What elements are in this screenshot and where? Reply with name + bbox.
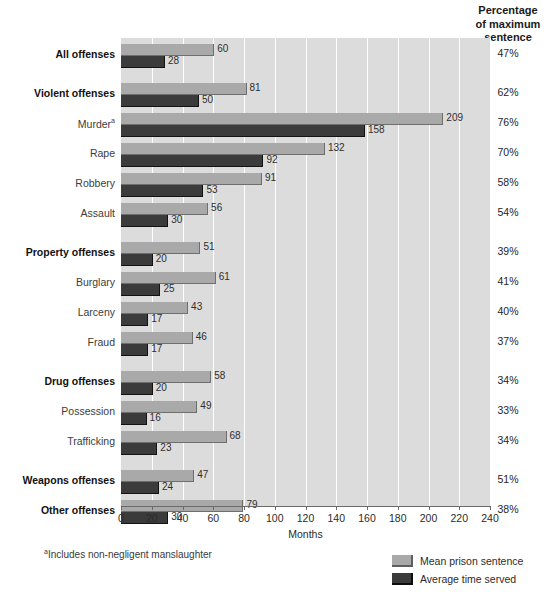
legend: Mean prison sentenceAverage time served bbox=[392, 553, 523, 589]
row-label-fraud: Fraud bbox=[0, 336, 115, 348]
row-label-assault: Assault bbox=[0, 207, 115, 219]
percentage-of-maximum-sentence-value: 34% bbox=[462, 434, 554, 446]
percentage-of-maximum-sentence-value: 39% bbox=[462, 245, 554, 257]
bar-average-time-served bbox=[121, 413, 147, 425]
percentage-of-maximum-sentence-value: 70% bbox=[462, 146, 554, 158]
bar-value-mean: 60 bbox=[217, 43, 228, 54]
bar-value-mean: 81 bbox=[250, 82, 261, 93]
bar-average-time-served bbox=[121, 482, 159, 494]
x-tick-200 bbox=[429, 506, 430, 510]
x-tick-label-200: 200 bbox=[414, 512, 444, 524]
x-tick-label-240: 240 bbox=[475, 512, 505, 524]
legend-item-mean[interactable]: Mean prison sentence bbox=[392, 553, 523, 569]
x-tick-label-80: 80 bbox=[229, 512, 259, 524]
bar-value-mean: 209 bbox=[446, 112, 463, 123]
chart-row: Possession491633% bbox=[0, 399, 558, 429]
bar-mean-prison-sentence bbox=[121, 203, 208, 215]
x-tick-0 bbox=[121, 506, 122, 510]
footnote: aIncludes non-negligent manslaughter bbox=[44, 548, 212, 560]
chart-row: Property offenses512039% bbox=[0, 240, 558, 270]
row-label-burglary: Burglary bbox=[0, 276, 115, 288]
bar-average-time-served bbox=[121, 284, 160, 296]
bar-value-mean: 91 bbox=[265, 172, 276, 183]
bar-value-served: 158 bbox=[368, 124, 385, 135]
legend-swatch-served bbox=[392, 573, 413, 585]
bar-average-time-served bbox=[121, 254, 153, 266]
bar-value-mean: 68 bbox=[230, 430, 241, 441]
bar-mean-prison-sentence bbox=[121, 431, 227, 443]
row-label-drug-offenses: Drug offenses bbox=[0, 375, 115, 387]
x-tick-140 bbox=[336, 506, 337, 510]
bar-average-time-served bbox=[121, 344, 148, 356]
x-tick-label-120: 120 bbox=[291, 512, 321, 524]
percentage-of-maximum-sentence-value: 33% bbox=[462, 404, 554, 416]
bar-value-served: 23 bbox=[160, 442, 171, 453]
bar-average-time-served bbox=[121, 155, 263, 167]
x-tick-100 bbox=[275, 506, 276, 510]
legend-item-served[interactable]: Average time served bbox=[392, 571, 523, 587]
bar-value-served: 30 bbox=[171, 214, 182, 225]
bar-average-time-served bbox=[121, 383, 153, 395]
bar-value-mean: 51 bbox=[203, 241, 214, 252]
bar-value-mean: 47 bbox=[197, 469, 208, 480]
percentage-of-maximum-sentence-value: 58% bbox=[462, 176, 554, 188]
row-label-trafficking: Trafficking bbox=[0, 435, 115, 447]
x-tick-240 bbox=[490, 506, 491, 510]
row-label-weapons-offenses: Weapons offenses bbox=[0, 474, 115, 486]
x-tick-label-160: 160 bbox=[352, 512, 382, 524]
bar-average-time-served bbox=[121, 215, 168, 227]
chart-row: Burglary612541% bbox=[0, 270, 558, 300]
chart-row: Murdera20915876% bbox=[0, 111, 558, 141]
bar-value-mean: 132 bbox=[328, 142, 345, 153]
bar-average-time-served bbox=[121, 95, 199, 107]
row-label-violent-offenses: Violent offenses bbox=[0, 87, 115, 99]
bar-value-served: 50 bbox=[202, 94, 213, 105]
x-axis-label: Months bbox=[121, 528, 490, 540]
bar-value-served: 92 bbox=[266, 154, 277, 165]
x-tick-label-40: 40 bbox=[168, 512, 198, 524]
x-tick-40 bbox=[183, 506, 184, 510]
percentage-column-heading-line2: of maximum bbox=[462, 18, 554, 32]
bar-value-mean: 49 bbox=[200, 400, 211, 411]
row-label-property-offenses: Property offenses bbox=[0, 246, 115, 258]
row-label-footnote-marker: a bbox=[111, 117, 115, 124]
chart-row: Drug offenses582034% bbox=[0, 369, 558, 399]
bar-average-time-served bbox=[121, 314, 148, 326]
chart-row: Fraud461737% bbox=[0, 330, 558, 360]
percentage-of-maximum-sentence-value: 62% bbox=[462, 86, 554, 98]
bar-value-served: 17 bbox=[151, 313, 162, 324]
bar-value-served: 20 bbox=[156, 253, 167, 264]
bar-mean-prison-sentence bbox=[121, 173, 262, 185]
bar-average-time-served bbox=[121, 185, 203, 197]
footnote-text: Includes non-negligent manslaughter bbox=[48, 549, 212, 560]
percentage-of-maximum-sentence-value: 41% bbox=[462, 275, 554, 287]
bar-average-time-served bbox=[121, 56, 165, 68]
bar-mean-prison-sentence bbox=[121, 113, 443, 125]
chart-row: Violent offenses815062% bbox=[0, 81, 558, 111]
bar-average-time-served bbox=[121, 125, 365, 137]
bar-value-served: 53 bbox=[206, 184, 217, 195]
x-tick-label-140: 140 bbox=[321, 512, 351, 524]
row-label-rape: Rape bbox=[0, 147, 115, 159]
bar-mean-prison-sentence bbox=[121, 83, 247, 95]
bar-value-served: 25 bbox=[163, 283, 174, 294]
legend-label-served: Average time served bbox=[420, 573, 516, 585]
bar-value-mean: 46 bbox=[196, 331, 207, 342]
bar-mean-prison-sentence bbox=[121, 470, 194, 482]
x-tick-label-220: 220 bbox=[444, 512, 474, 524]
chart-row: Robbery915358% bbox=[0, 171, 558, 201]
x-tick-120 bbox=[306, 506, 307, 510]
bar-chart: All offenses602847%Violent offenses81506… bbox=[0, 38, 558, 506]
x-tick-20 bbox=[152, 506, 153, 510]
row-label-possession: Possession bbox=[0, 405, 115, 417]
bar-average-time-served bbox=[121, 443, 157, 455]
percentage-of-maximum-sentence-value: 37% bbox=[462, 335, 554, 347]
percentage-of-maximum-sentence-value: 40% bbox=[462, 305, 554, 317]
bar-value-served: 28 bbox=[168, 55, 179, 66]
percentage-column-heading-line1: Percentage bbox=[462, 4, 554, 18]
chart-row: Weapons offenses472451% bbox=[0, 468, 558, 498]
row-label-robbery: Robbery bbox=[0, 177, 115, 189]
row-label-larceny: Larceny bbox=[0, 306, 115, 318]
bar-value-served: 20 bbox=[156, 382, 167, 393]
x-tick-label-0: 0 bbox=[106, 512, 136, 524]
